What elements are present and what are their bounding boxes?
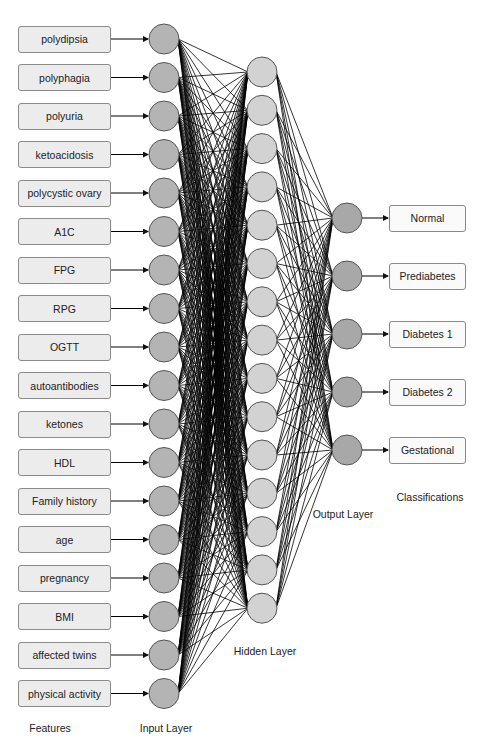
classification-box: Prediabetes <box>389 263 466 290</box>
hidden-node <box>247 325 277 355</box>
input-node <box>149 409 179 439</box>
hidden-node <box>247 363 277 393</box>
input-node <box>149 640 179 670</box>
feature-box: FPG <box>18 257 111 284</box>
hidden-layer-label: Hidden Layer <box>234 645 296 657</box>
feature-box: polycystic ovary <box>18 180 111 207</box>
hidden-node <box>247 555 277 585</box>
classification-box: Diabetes 1 <box>389 321 466 348</box>
input-layer-label: Input Layer <box>140 722 193 734</box>
input-node <box>149 679 179 709</box>
feature-box: OGTT <box>18 334 111 361</box>
output-node <box>332 319 362 349</box>
input-node <box>149 448 179 478</box>
hidden-output-edges <box>276 72 333 608</box>
feature-box: A1C <box>18 218 111 245</box>
output-node <box>332 435 362 465</box>
feature-box: age <box>18 526 111 553</box>
feature-box: ketones <box>18 411 111 438</box>
hidden-node <box>247 440 277 470</box>
output-layer-label: Output Layer <box>313 508 374 520</box>
hidden-node <box>247 172 277 202</box>
hidden-node <box>247 210 277 240</box>
classification-box: Normal <box>389 205 466 232</box>
feature-box: polydipsia <box>18 26 111 53</box>
feature-box: autoantibodies <box>18 372 111 399</box>
output-node <box>332 261 362 291</box>
feature-box: affected twins <box>18 642 111 669</box>
feature-box: ketoacidosis <box>18 141 111 168</box>
input-hidden-edges <box>178 39 248 694</box>
input-node <box>149 563 179 593</box>
feature-box: BMI <box>18 603 111 630</box>
classification-box: Gestational <box>389 437 466 464</box>
input-node <box>149 217 179 247</box>
input-node <box>149 602 179 632</box>
hidden-node <box>247 478 277 508</box>
feature-box: HDL <box>18 449 111 476</box>
input-node <box>149 525 179 555</box>
hidden-node <box>247 57 277 87</box>
input-node <box>149 24 179 54</box>
input-node <box>149 332 179 362</box>
output-node <box>332 203 362 233</box>
input-node <box>149 371 179 401</box>
input-node <box>149 140 179 170</box>
hidden-node <box>247 287 277 317</box>
input-node <box>149 255 179 285</box>
features-label: Features <box>29 722 70 734</box>
hidden-node <box>247 95 277 125</box>
feature-box: Family history <box>18 488 111 515</box>
input-node <box>149 294 179 324</box>
hidden-node <box>247 249 277 279</box>
output-node <box>332 377 362 407</box>
arrows <box>111 39 388 694</box>
feature-box: pregnancy <box>18 565 111 592</box>
input-node <box>149 178 179 208</box>
hidden-node <box>247 517 277 547</box>
neural-network-diagram: polydipsiapolyphagiapolyuriaketoacidosis… <box>0 0 481 749</box>
feature-box: physical activity <box>18 680 111 707</box>
feature-box: polyphagia <box>18 64 111 91</box>
input-node <box>149 486 179 516</box>
feature-box: polyuria <box>18 103 111 130</box>
hidden-node <box>247 402 277 432</box>
input-node <box>149 101 179 131</box>
classification-box: Diabetes 2 <box>389 379 466 406</box>
input-node <box>149 63 179 93</box>
classifications-label: Classifications <box>396 491 463 503</box>
hidden-node <box>247 134 277 164</box>
feature-box: RPG <box>18 295 111 322</box>
hidden-node <box>247 593 277 623</box>
